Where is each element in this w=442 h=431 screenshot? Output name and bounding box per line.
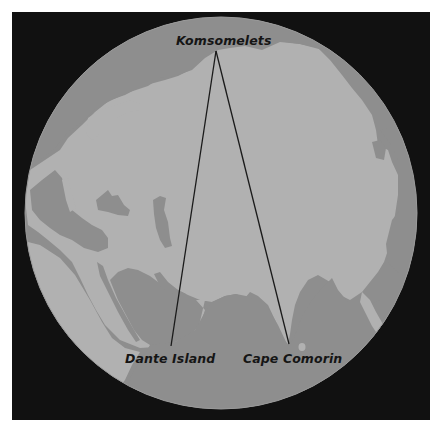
label-dante-island: Dante Island (125, 351, 215, 366)
land-sri-lanka (299, 343, 306, 351)
globe-map (0, 0, 442, 431)
label-komsomelets: Komsomelets (176, 33, 271, 48)
label-cape-comorin: Cape Comorin (243, 351, 342, 366)
